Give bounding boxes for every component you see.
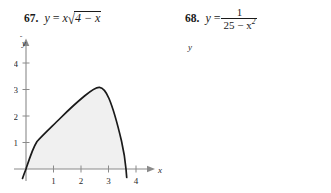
graph-67-y-axis-letter: y [22, 38, 26, 48]
problem-67: 67. y = x√4 − x x y [0, 0, 165, 193]
y-tick-label-1: 1 [14, 138, 18, 148]
y-axis-tick-labels: 1 2 3 4 [14, 59, 19, 149]
problem-68: 68. y =125 − x2 x 2 4 [165, 0, 331, 193]
graph-68-y-axis-letter: y [188, 42, 192, 52]
problem-68-heading: 68. y =125 − x2 [185, 6, 258, 33]
x-tick-label-1: 1 [51, 176, 56, 186]
denominator-exponent: 2 [252, 17, 256, 26]
x-axis-arrow-icon [147, 166, 155, 173]
x-tick-label-4: 4 [134, 176, 139, 186]
y-tick-label-3: 3 [14, 85, 19, 95]
problem-67-heading: 67. y = x√4 − x [24, 11, 101, 25]
problem-67-equation: y = x√4 − x [38, 11, 101, 25]
radical-expression: √4 − x [68, 11, 102, 24]
radicand: 4 − x [74, 11, 101, 24]
equation-lhs: y [44, 11, 49, 25]
fraction-denominator: 25 − x2 [221, 18, 257, 32]
x-tick-label-2: 2 [79, 176, 84, 186]
equals-sign: = [214, 11, 221, 25]
y-axis-label: y [20, 36, 25, 37]
equals-sign: = [53, 11, 60, 25]
fraction-numerator: 1 [221, 6, 257, 19]
textbook-exercise-figure-pair: 67. y = x√4 − x x y [0, 0, 331, 193]
problem-68-equation: y =125 − x2 [199, 11, 258, 25]
graph-67-canvas: x y 1 2 3 4 [14, 36, 165, 191]
y-tick-label-4: 4 [14, 59, 19, 69]
x-axis-label: x [157, 165, 162, 175]
shaded-area-under-curve [26, 87, 126, 169]
problem-68-number: 68. [185, 12, 199, 24]
y-tick-label-2: 2 [14, 112, 18, 122]
denominator-base: 25 − x [223, 19, 251, 31]
equation-lhs: y [205, 11, 210, 25]
fraction: 125 − x2 [221, 6, 257, 33]
x-tick-label-3: 3 [106, 176, 111, 186]
x-axis-tick-labels: 1 2 3 4 [51, 176, 139, 186]
problem-67-number: 67. [24, 12, 38, 24]
